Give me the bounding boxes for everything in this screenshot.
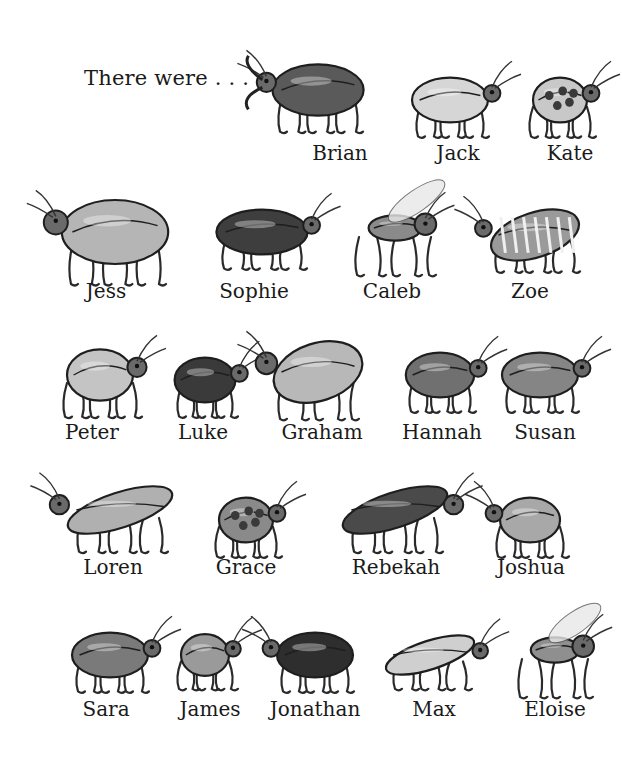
bug-name-label: Grace	[216, 555, 277, 579]
bug-name-label: Jack	[436, 141, 479, 165]
bug-illustration-icon	[0, 0, 622, 762]
bug-illustration-icon	[0, 0, 622, 762]
bug-name-label: Kate	[547, 141, 594, 165]
bug-name-label: Hannah	[402, 420, 482, 444]
bug-name-label: Brian	[312, 141, 367, 165]
bug-illustration-icon	[0, 0, 622, 762]
bug-name-label: James	[179, 697, 240, 721]
bug-name-label: Eloise	[524, 697, 586, 721]
bug-illustration-icon	[0, 0, 622, 762]
bug-illustration-icon	[0, 0, 622, 762]
bug-illustration-icon	[0, 0, 622, 762]
bug-illustration-icon	[0, 0, 622, 762]
intro-text: There were . . .	[84, 66, 249, 90]
bug-name-label: Rebekah	[352, 555, 440, 579]
bug-illustration-icon	[0, 0, 622, 762]
bug-illustration-icon	[0, 0, 622, 762]
bug-name-label: Caleb	[363, 279, 421, 303]
bug-illustration-icon	[0, 0, 622, 762]
bug-illustration-icon	[0, 0, 622, 762]
bug-name-label: Susan	[514, 420, 576, 444]
bug-name-label: Loren	[83, 555, 143, 579]
bug-illustration-icon	[0, 0, 622, 762]
bug-name-label: Jonathan	[270, 697, 361, 721]
bug-name-label: Sophie	[219, 279, 289, 303]
bug-illustration-icon	[0, 0, 622, 762]
bug-name-label: Luke	[178, 420, 228, 444]
bug-illustration-icon	[0, 0, 622, 762]
bug-illustration-icon	[0, 0, 622, 762]
bug-illustration-icon	[0, 0, 622, 762]
bug-name-label: Graham	[281, 420, 362, 444]
bug-name-label: Peter	[65, 420, 119, 444]
bug-name-label: Max	[412, 697, 456, 721]
bug-illustration-icon	[0, 0, 622, 762]
bug-illustration-icon	[0, 0, 622, 762]
bug-name-label: Joshua	[497, 555, 565, 579]
bug-illustration-icon	[0, 0, 622, 762]
bug-name-label: Zoe	[511, 279, 549, 303]
bug-illustration-icon	[0, 0, 622, 762]
bug-illustration-icon	[0, 0, 622, 762]
bug-name-label: Sara	[82, 697, 129, 721]
bug-name-label: Jess	[86, 279, 126, 303]
